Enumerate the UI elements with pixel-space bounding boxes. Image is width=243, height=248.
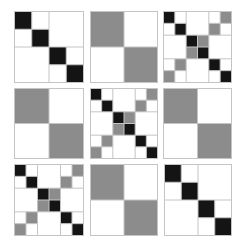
black-cell [61,212,73,224]
gray-cell [124,47,158,83]
gray-cell [113,124,124,136]
black-cell [165,165,182,183]
black-cell [198,200,215,218]
gray-cell [61,176,73,188]
black-cell [220,71,231,83]
matrix-panel-p5 [90,88,158,159]
black-cell [186,35,197,47]
black-cell [198,47,209,59]
black-cell [15,165,27,177]
matrix-panel-p4 [14,88,84,159]
black-cell [49,47,66,65]
black-cell [175,23,186,35]
black-cell [135,135,146,147]
gray-cell [15,89,50,124]
gray-cell [209,23,220,35]
matrix-panel-p2 [90,11,158,83]
black-cell [66,65,83,83]
matrix-panel-p3 [163,11,232,83]
black-cell [15,12,32,30]
black-cell [91,89,102,101]
gray-cell [175,59,186,71]
matrix-panel-p6 [163,88,232,159]
black-cell [49,200,61,212]
gray-cell [146,89,157,101]
black-cell [26,176,38,188]
gray-cell [15,224,27,236]
matrix-panel-p9 [164,164,232,236]
gray-cell [91,165,125,201]
black-cell [146,147,157,159]
black-cell [32,29,49,47]
matrix-panel-p7 [14,164,84,236]
black-cell [209,59,220,71]
black-cell [215,218,232,236]
gray-cell [91,147,102,159]
gray-cell [198,124,232,159]
black-cell [102,100,113,112]
black-cell [72,224,84,236]
black-cell [113,112,124,124]
gray-cell [124,112,135,124]
matrix-panel-p1 [14,11,84,83]
gray-cell [164,89,198,124]
gray-cell [220,12,231,24]
black-cell [181,182,198,200]
gray-cell [198,35,209,47]
gray-cell [91,12,125,48]
gray-cell [186,47,197,59]
black-cell [124,124,135,136]
black-cell [164,12,175,24]
gray-cell [49,124,84,159]
gray-cell [102,135,113,147]
black-cell [38,188,50,200]
gray-cell [38,200,50,212]
gray-cell [72,165,84,177]
gray-cell [124,200,158,236]
gray-cell [49,188,61,200]
gray-cell [164,71,175,83]
gray-cell [135,100,146,112]
matrix-panel-p8 [90,164,158,236]
gray-cell [26,212,38,224]
